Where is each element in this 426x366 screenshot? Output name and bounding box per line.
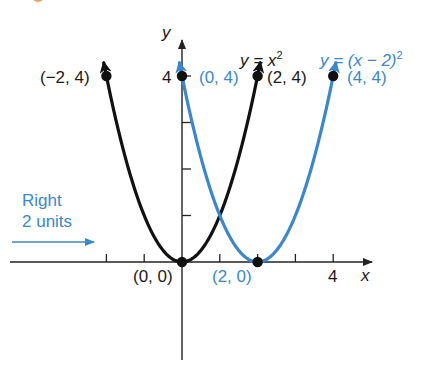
point-label-0-4: (0, 4) [199,69,239,86]
data-point [328,71,338,81]
point-label-neg2-4: (−2, 4) [40,69,90,86]
y-tick-label-4: 4 [162,69,171,86]
point-label-4-4: (4, 4) [347,69,387,86]
curve-y-equals-x-squared-right [182,63,260,262]
shift-label-line2: 2 units [22,213,72,230]
point-label-0-0: (0, 0) [133,268,173,285]
curve-y-equals-x-minus-2-squared-right [258,63,336,262]
data-point [252,257,262,267]
x-tick-label-4: 4 [328,268,337,285]
curve-y-equals-x-squared-left [104,63,182,262]
equation-black: y = x2 [240,50,283,69]
point-label-2-0: (2, 0) [212,268,252,285]
curves [104,63,336,262]
data-point [177,71,187,81]
axes [10,40,372,360]
equation-blue: y = (x − 2)2 [320,50,403,69]
curve-y-equals-x-minus-2-squared-left [179,63,257,262]
points [101,71,338,267]
x-axis-label: x [361,267,370,284]
shift-label-line1: Right [22,192,62,209]
y-axis-label: y [162,24,171,41]
data-point [177,257,187,267]
point-label-2-4: (2, 4) [267,69,307,86]
data-point [101,71,111,81]
data-point [252,71,262,81]
